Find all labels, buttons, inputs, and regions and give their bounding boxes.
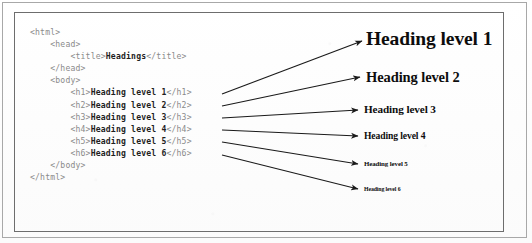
- code-indent: [30, 39, 50, 49]
- code-line: </body>: [30, 159, 192, 171]
- code-line: <h2>Heading level 2</h2>: [30, 99, 192, 111]
- code-line: <body>: [30, 74, 192, 86]
- code-tag-close: </h1>: [166, 87, 191, 97]
- code-line: <h3>Heading level 3</h3>: [30, 111, 192, 123]
- code-line: <h5>Heading level 5</h5>: [30, 135, 192, 147]
- code-tag-close: </title>: [146, 51, 186, 61]
- code-line: <head>: [30, 38, 192, 50]
- code-indent: [30, 63, 50, 73]
- code-line: <h1>Heading level 1</h1>: [30, 86, 192, 98]
- code-tag-close: </h4>: [166, 124, 191, 134]
- code-line: </head>: [30, 62, 192, 74]
- code-indent: [30, 124, 70, 134]
- code-indent: [30, 87, 70, 97]
- code-tag-close: </h2>: [166, 100, 191, 110]
- code-tag-open: <head>: [50, 39, 80, 49]
- code-tag-open: <h3>: [70, 112, 90, 122]
- rendered-heading-h5: Heading level 5: [364, 160, 408, 167]
- code-tag-close: </h5>: [166, 136, 191, 146]
- html-code-listing: <html> <head> <title>Headings</title> </…: [30, 26, 192, 183]
- code-text-content: Heading level 2: [91, 100, 167, 110]
- code-text-content: Heading level 4: [91, 124, 167, 134]
- code-tag-open: <h6>: [70, 148, 90, 158]
- code-tag-open: <h5>: [70, 136, 90, 146]
- rendered-heading-h1: Heading level 1: [366, 28, 492, 50]
- rendered-heading-h4: Heading level 4: [364, 130, 425, 141]
- code-line: <html>: [30, 26, 192, 38]
- code-indent: [30, 160, 50, 170]
- code-indent: [30, 136, 70, 146]
- code-line: <h4>Heading level 4</h4>: [30, 123, 192, 135]
- code-tag-open: <h1>: [70, 87, 90, 97]
- code-line: <title>Headings</title>: [30, 50, 192, 62]
- code-text-content: Heading level 3: [91, 112, 167, 122]
- code-indent: [30, 51, 70, 61]
- code-text-content: Headings: [106, 51, 146, 61]
- code-tag-open: <h4>: [70, 124, 90, 134]
- rendered-heading-h6: Heading level 6: [364, 186, 401, 192]
- code-indent: [30, 112, 70, 122]
- code-tag-close: </h6>: [166, 148, 191, 158]
- code-tag-open: <body>: [50, 75, 80, 85]
- code-tag-open: </head>: [50, 63, 85, 73]
- code-tag-open: <html>: [30, 27, 60, 37]
- code-indent: [30, 148, 70, 158]
- rendered-heading-h3: Heading level 3: [364, 103, 436, 115]
- code-tag-open: </body>: [50, 160, 85, 170]
- code-tag-open: <title>: [70, 51, 105, 61]
- code-tag-open: </html>: [30, 172, 65, 182]
- code-indent: [30, 75, 50, 85]
- code-indent: [30, 100, 70, 110]
- headings-figure: <html> <head> <title>Headings</title> </…: [0, 0, 532, 243]
- code-text-content: Heading level 6: [91, 148, 167, 158]
- code-text-content: Heading level 1: [91, 87, 167, 97]
- code-line: <h6>Heading level 6</h6>: [30, 147, 192, 159]
- code-tag-open: <h2>: [70, 100, 90, 110]
- code-tag-close: </h3>: [166, 112, 191, 122]
- code-text-content: Heading level 5: [91, 136, 167, 146]
- rendered-heading-h2: Heading level 2: [366, 69, 460, 86]
- code-line: </html>: [30, 171, 192, 183]
